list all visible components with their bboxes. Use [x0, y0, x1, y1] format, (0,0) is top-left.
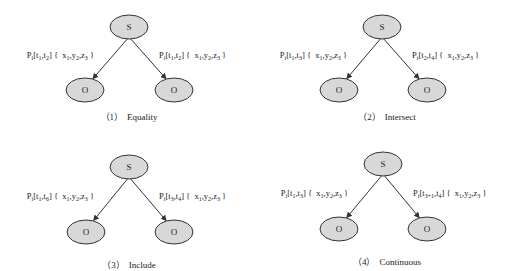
- object-label-right: O: [154, 85, 194, 95]
- edge-label-left: Pi[t1,t3] { x1,y2,z3 }: [281, 187, 348, 199]
- object-label-left: O: [319, 85, 359, 95]
- caption-text: Intersect: [385, 112, 416, 122]
- caption-text: Include: [129, 260, 156, 270]
- object-label-right: O: [407, 85, 447, 95]
- caption-number: （3）: [102, 260, 125, 270]
- caption-text: Equality: [127, 112, 158, 122]
- caption-text: Continuous: [379, 257, 421, 267]
- subject-label: S: [363, 159, 403, 169]
- caption-number: （4）: [353, 257, 376, 267]
- object-label-left: O: [66, 227, 106, 237]
- caption-number: （1）: [101, 112, 124, 122]
- subject-label: S: [109, 22, 149, 32]
- edge-left: [93, 37, 129, 79]
- edge-label-right: Pi[t1,t2] { x1,y2,z3 }: [159, 49, 226, 61]
- panel-caption: （3）Include: [0, 258, 258, 271]
- relation-panel-4: S O O Pi[t1,t3] { x1,y2,z3 } Pi[t3+1,t4]…: [258, 132, 516, 264]
- edge-label-left: Pi[t1,t3] { x1,y2,z3 }: [280, 49, 347, 61]
- edge-label-left: Pi[t1,t2] { x1,y2,z3 }: [27, 49, 94, 61]
- caption-number: （2）: [358, 112, 381, 122]
- subject-label: S: [362, 22, 402, 32]
- edge-label-right: Pi[t3+1,t4] { x1,y2,z3 }: [413, 187, 487, 199]
- panel-caption: （1）Equality: [0, 110, 258, 123]
- subject-label: S: [109, 162, 149, 172]
- relation-panel-1: S O O Pi[t1,t2] { x1,y2,z3 } Pi[t1,t2] {…: [0, 0, 258, 132]
- edge-label-right: Pi[t3,t4] { x1,y2,z3 }: [159, 190, 226, 202]
- panel-caption: （4）Continuous: [258, 255, 516, 268]
- object-label-right: O: [154, 227, 194, 237]
- object-label-right: O: [407, 224, 447, 234]
- edge-label-right: Pi[t2,t4] { x1,y2,z3 }: [412, 49, 479, 61]
- edge-label-left: Pi[t1,t6] { x1,y2,z3 }: [27, 190, 94, 202]
- object-label-left: O: [65, 85, 105, 95]
- panel-caption: （2）Intersect: [258, 110, 516, 123]
- object-label-left: O: [319, 224, 359, 234]
- relation-panel-3: S O O Pi[t1,t6] { x1,y2,z3 } Pi[t3,t4] {…: [0, 132, 258, 264]
- relation-panel-2: S O O Pi[t1,t3] { x1,y2,z3 } Pi[t2,t4] {…: [258, 0, 516, 132]
- edge-left: [94, 177, 129, 220]
- edge-left: [347, 37, 382, 78]
- edge-left: [347, 174, 383, 217]
